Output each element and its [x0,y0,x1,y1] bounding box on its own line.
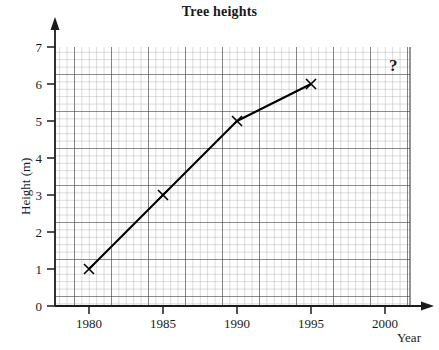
x-tick-label-1985: 1985 [133,316,193,332]
chart-container: Tree heights [0,0,439,350]
x-tick-label-1990: 1990 [207,316,267,332]
y-tick-label-6: 6 [20,77,42,93]
y-tick-label-1: 1 [20,262,42,278]
y-tick-label-0: 0 [20,299,42,315]
x-axis-title: Year [397,330,421,346]
chart-canvas [0,0,439,350]
question-mark-annotation: ? [389,57,398,74]
plot-gridlines [55,47,410,306]
y-tick-label-2: 2 [20,225,42,241]
x-tick-label-1995: 1995 [281,316,341,332]
y-tick-label-5: 5 [20,114,42,130]
y-axis-title: Height (m) [18,158,34,215]
y-tick-label-7: 7 [20,40,42,56]
x-tick-label-1980: 1980 [59,316,119,332]
